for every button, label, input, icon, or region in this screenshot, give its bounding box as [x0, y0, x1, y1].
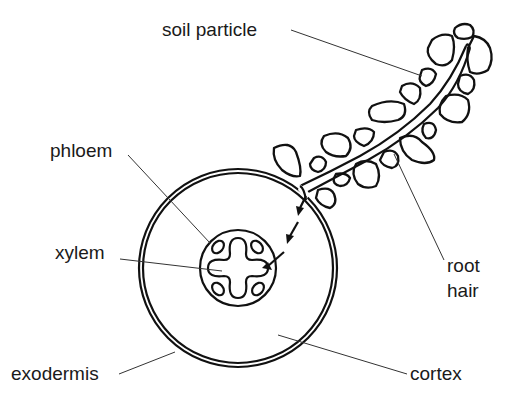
xylem-shape: [208, 238, 268, 298]
label-exodermis: exodermis: [11, 363, 99, 384]
leader-lines: [119, 30, 444, 374]
label-hair: hair: [447, 280, 479, 301]
water-path-arrows: [262, 196, 306, 270]
label-xylem: xylem: [55, 242, 105, 263]
phloem-oval: [249, 238, 266, 255]
label-cortex: cortex: [410, 363, 462, 384]
label-root: root: [447, 255, 480, 276]
label-phloem: phloem: [50, 140, 112, 161]
root-cross-section-diagram: soil particle phloem xylem exodermis cor…: [0, 0, 511, 402]
label-soil-particle: soil particle: [162, 19, 257, 40]
soil-particles: [274, 24, 492, 208]
